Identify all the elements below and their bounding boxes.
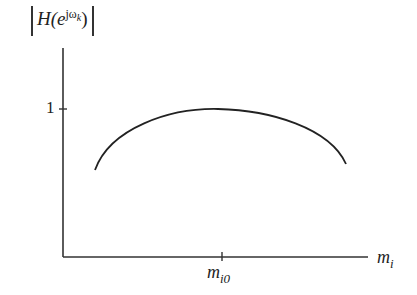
x-axis-label: mi xyxy=(377,247,394,272)
plot-canvas xyxy=(0,0,417,295)
x-tick-main: m xyxy=(207,262,220,282)
response-curve xyxy=(95,109,346,170)
y-label-text: H(e xyxy=(37,8,65,29)
y-label-close-paren: ) xyxy=(81,8,87,29)
abs-bar-left xyxy=(31,6,33,36)
y-axis-label: H(ejωk) xyxy=(27,6,98,36)
x-tick-label: mi0 xyxy=(207,262,230,287)
y-tick-label: 1 xyxy=(46,98,55,118)
frequency-response-figure: H(ejωk) 1 mi mi0 xyxy=(0,0,417,295)
x-label-sub: i xyxy=(390,256,394,271)
y-label-exponent: jω xyxy=(65,7,76,21)
x-label-main: m xyxy=(377,247,390,267)
abs-bar-right xyxy=(92,6,94,36)
x-tick-sub: i0 xyxy=(220,271,230,286)
